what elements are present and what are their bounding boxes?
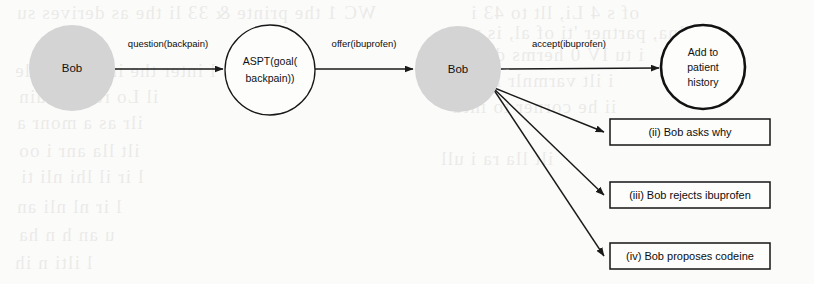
edge-label-offer: offer(ibuprofen) [332,38,397,49]
edge-label-question: question(backpain) [128,38,208,49]
branch-edges [492,87,604,256]
node-aspt-label-line2: backpain)) [245,72,294,84]
node-bob-start-label: Bob [62,62,82,74]
figure-canvas: the as derives suWC 1 the printe & 33 li… [0,0,814,284]
node-bob-mid[interactable]: Bob [415,26,501,112]
node-aspt-label-line1: ASPT(goal( [243,55,298,67]
outcome-box-iv[interactable]: (iv) Bob proposes codeine [610,243,770,269]
edge-offer: offer(ibuprofen) [314,38,413,69]
edge-accept: accept(ibuprofen) [501,38,659,69]
node-add-history-label-line1: Add to [688,46,719,58]
branch-edge-ii [492,87,604,132]
node-bob-start[interactable]: Bob [29,25,115,111]
node-bob-mid-label: Bob [448,63,468,75]
branch-edge-iii [492,87,604,195]
outcome-box-iii[interactable]: (iii) Bob rejects ibuprofen [610,182,770,208]
outcome-box-ii[interactable]: (ii) Bob asks why [610,119,770,145]
node-aspt[interactable]: ASPT(goal( backpain)) [225,25,315,115]
branch-edge-iv [492,87,604,256]
protocol-diagram: question(backpain) offer(ibuprofen) acce… [0,0,814,284]
edge-question: question(backpain) [115,38,223,69]
node-add-history-label-line2: patient [687,61,719,73]
outcome-box-iv-label: (iv) Bob proposes codeine [626,250,754,262]
node-add-history-label-line3: history [688,76,720,88]
node-add-to-patient-history[interactable]: Add to patient history [661,25,745,109]
outcome-box-ii-label: (ii) Bob asks why [648,126,732,138]
outcome-box-iii-label: (iii) Bob rejects ibuprofen [629,189,751,201]
edge-label-accept: accept(ibuprofen) [532,38,606,49]
